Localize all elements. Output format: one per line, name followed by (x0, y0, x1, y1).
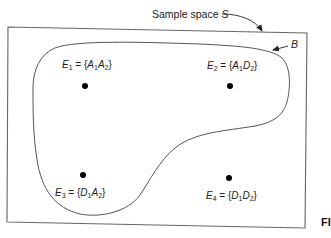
sample-space-text: Sample space (152, 8, 219, 20)
event-e4-label: E4 = {D1D2} (206, 190, 257, 205)
equals-brace: = { (66, 187, 81, 198)
outcome1-letter: A (87, 59, 94, 70)
sample-space-label: Sample space S (152, 8, 228, 20)
event-e2-label: E2 = {A1D2} (207, 60, 257, 75)
event-e4-dot (226, 175, 232, 181)
close-brace: } (254, 190, 257, 201)
event-e1-dot (82, 83, 88, 89)
figure-label-fragment: FI (321, 216, 331, 228)
event-e1-label: E1 = {A1A2} (62, 59, 112, 74)
sample-space-symbol: S (221, 8, 228, 20)
outcome1-letter: D (80, 187, 87, 198)
equals-brace: = { (217, 190, 232, 201)
outcome1-letter: D (231, 190, 238, 201)
close-brace: } (108, 59, 111, 70)
outcome1-letter: A (232, 60, 239, 71)
equals-brace: = { (218, 60, 233, 71)
outcome2-letter: A (98, 59, 105, 70)
event-e3-label: E3 = {D1A2} (55, 187, 105, 202)
close-brace: } (254, 60, 257, 71)
set-b-label: B (291, 38, 298, 50)
venn-diagram (0, 0, 331, 238)
event-name: E (207, 60, 214, 71)
event-e3-dot (80, 172, 86, 178)
equals-brace: = { (73, 59, 88, 70)
outcome2-letter: D (242, 190, 249, 201)
event-name: E (206, 190, 213, 201)
event-name: E (55, 187, 62, 198)
close-brace: } (102, 187, 105, 198)
event-name: E (62, 59, 69, 70)
set-b-arrow (273, 46, 288, 50)
event-e2-dot (227, 83, 233, 89)
